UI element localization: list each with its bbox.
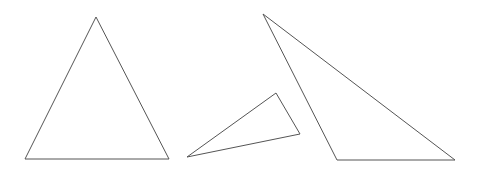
diagram-canvas bbox=[0, 0, 480, 173]
triangle-small-obtuse bbox=[187, 93, 300, 157]
triangle-isosceles bbox=[25, 17, 169, 159]
triangle-large-scalene bbox=[263, 14, 455, 160]
